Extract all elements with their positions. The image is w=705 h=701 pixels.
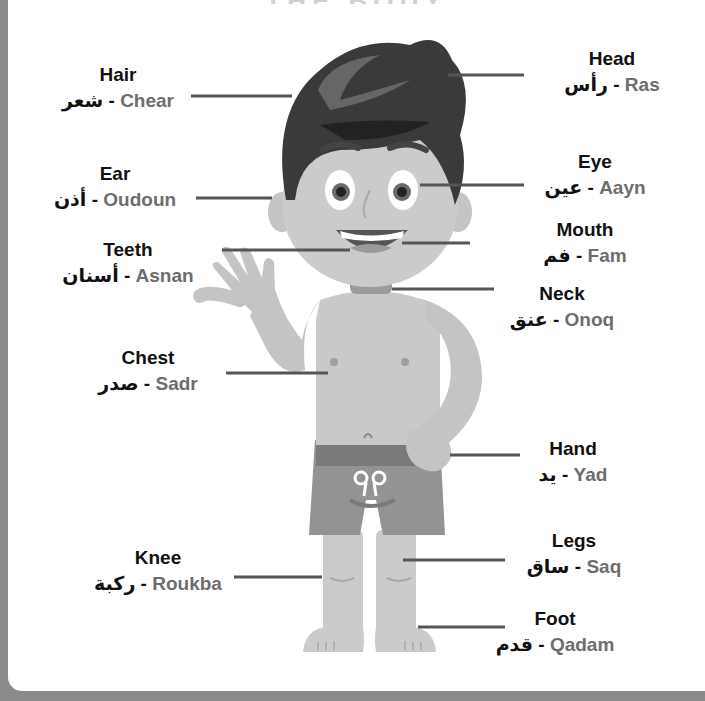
label-english: Eye [544,150,645,174]
label-english: Neck [510,282,614,306]
label-arabic: يد [539,463,557,485]
label-english: Ear [54,162,176,186]
label-arabic: عنق [510,308,548,330]
label-english: Hair [62,63,174,87]
label-neck: Neck عنق - Onoq [510,282,614,333]
label-mouth: Mouth فم - Fam [543,218,626,269]
label-romanization: Qadam [550,634,614,655]
label-romanization: Ras [625,74,660,95]
label-romanization: Roukba [152,573,222,594]
label-romanization: Fam [588,245,627,266]
label-arabic: ركبة [94,572,135,594]
label-english: Knee [94,546,222,570]
label-arabic: شعر [62,89,103,111]
label-knee: Knee ركبة - Roukba [94,546,222,597]
label-english: Hand [539,437,608,461]
label-arabic: فم [543,244,570,266]
label-ear: Ear أذن - Oudoun [54,162,176,213]
label-arabic: قدم [496,633,533,655]
legs-illustration [303,530,436,652]
label-arabic: أسنان [62,264,118,286]
label-hand: Hand يد - Yad [539,437,608,488]
torso-illustration [316,291,440,445]
label-english: Foot [496,607,615,631]
label-english: Head [564,47,659,71]
label-arabic: رأس [564,73,608,95]
label-arabic: صدر [98,372,138,394]
label-legs: Legs ساق - Saq [527,529,622,580]
label-head: Head رأس - Ras [564,47,659,98]
label-eye: Eye عين - Aayn [544,150,645,201]
label-romanization: Oudoun [103,189,176,210]
label-romanization: Yad [574,464,608,485]
label-teeth: Teeth أسنان - Asnan [62,238,193,289]
label-romanization: Aayn [599,177,645,198]
label-english: Teeth [62,238,193,262]
label-romanization: Sadr [155,373,197,394]
label-chest: Chest صدر - Sadr [98,346,197,397]
label-english: Mouth [543,218,626,242]
label-arabic: عين [544,176,582,198]
label-romanization: Chear [120,90,174,111]
label-hair: Hair شعر - Chear [62,63,174,114]
label-english: Legs [527,529,622,553]
label-english: Chest [98,346,197,370]
label-romanization: Saq [586,556,621,577]
label-romanization: Asnan [136,265,194,286]
label-romanization: Onoq [565,309,615,330]
label-foot: Foot قدم - Qadam [496,607,615,658]
label-arabic: أذن [54,188,86,210]
waving-arm-illustration [213,247,320,372]
label-arabic: ساق [527,555,570,577]
